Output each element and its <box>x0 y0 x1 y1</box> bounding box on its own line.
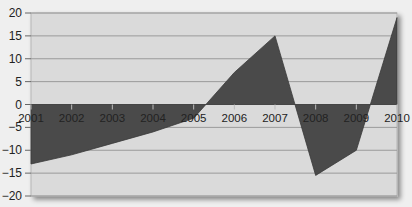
x-tick-label: 2004 <box>140 112 166 124</box>
x-tick-label: 2008 <box>303 112 329 124</box>
y-axis: 20151050−5−10−15−20 <box>2 6 31 203</box>
y-tick-label: 5 <box>15 75 22 89</box>
area-chart: 20151050−5−10−15−20 20012002200320042005… <box>0 0 412 207</box>
x-tick-label: 2009 <box>344 112 370 124</box>
y-tick-label: −10 <box>2 143 23 157</box>
x-tick-label: 2005 <box>181 112 207 124</box>
x-tick-label: 2003 <box>100 112 126 124</box>
x-tick-label: 2001 <box>18 112 44 124</box>
y-tick-label: 20 <box>9 6 23 20</box>
x-tick-label: 2002 <box>59 112 85 124</box>
y-tick-label: 0 <box>15 98 22 112</box>
x-tick-label: 2006 <box>222 112 248 124</box>
y-tick-label: 15 <box>9 29 23 43</box>
x-tick-label: 2010 <box>384 112 410 124</box>
y-tick-label: −15 <box>2 166 23 180</box>
x-tick-label: 2007 <box>262 112 288 124</box>
y-tick-label: 10 <box>9 52 23 66</box>
y-tick-label: −20 <box>2 189 23 203</box>
